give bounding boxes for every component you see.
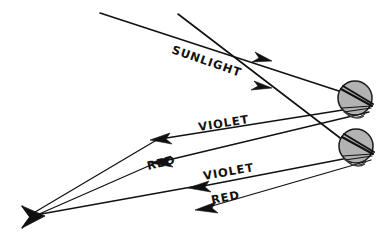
red-to-eye-ray	[30, 161, 160, 218]
violet-to-eye-ray	[30, 138, 160, 215]
violet-lower-to-eye-ray	[30, 186, 197, 216]
observer-eye-arrowhead	[22, 206, 45, 228]
sunlight-ray-lower-arrowhead	[251, 81, 272, 90]
label-red-upper: RED	[146, 153, 177, 173]
violet-ray-upper	[160, 106, 368, 139]
rainbow-diagram-canvas: SUNLIGHT VIOLET RED VIOLET RED	[0, 0, 392, 239]
rainbow-diagram: SUNLIGHT VIOLET RED VIOLET RED	[0, 0, 392, 239]
rays-to-observer-group	[30, 138, 197, 218]
label-violet-upper: VIOLET	[197, 112, 250, 134]
sunlight-ray-upper-arrowhead	[252, 52, 272, 62]
sunlight-ray-upper	[100, 13, 345, 93]
label-red-lower: RED	[210, 188, 241, 207]
label-group: SUNLIGHT VIOLET RED VIOLET RED	[146, 43, 256, 207]
observer-eye	[22, 206, 45, 228]
upper-droplet-output-rays	[150, 106, 369, 167]
label-violet-lower: VIOLET	[202, 160, 255, 183]
raindrop-group	[338, 81, 374, 166]
